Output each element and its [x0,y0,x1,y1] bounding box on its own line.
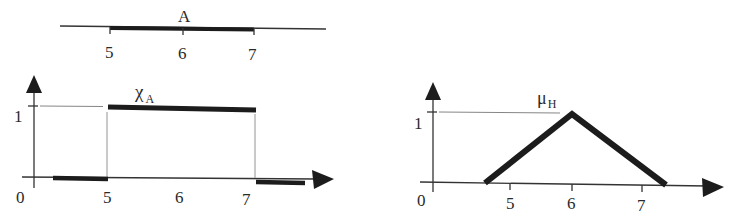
y-tick-label-1: 1 [414,114,423,133]
interval-a-segment [110,28,254,30]
tick-label-5: 5 [105,43,114,62]
y-axis-arrow-icon [26,75,42,93]
x-tick-label-5: 5 [103,188,112,207]
chi-a-value-one-segment [108,107,256,110]
tick-label-7: 7 [248,45,257,64]
x-tick-label-7: 7 [637,196,646,215]
mu-h-triangle [485,114,666,185]
chi-a-value-zero-right-segment [256,182,305,183]
diagram-canvas: A 5 6 7 1 χA 0 5 6 7 1 [0,0,738,220]
x-tick-label-5: 5 [506,194,515,213]
x-tick-label-6: 6 [175,188,184,207]
y-axis-arrow-icon [425,82,441,100]
function-label-mu: μH [537,88,557,111]
x-tick-label-7: 7 [242,190,251,209]
origin-label: 0 [417,191,426,210]
number-line-a: A 5 6 7 [60,7,326,64]
x-axis-arrow-icon [702,178,724,197]
guide-line-y1 [439,112,560,113]
guide-line-y1 [40,106,103,107]
set-label-a: A [178,7,191,26]
y-tick-label-1: 1 [14,107,23,126]
function-label-chi: χA [134,81,154,106]
tick-label-6: 6 [178,44,187,63]
x-axis-arrow-icon [312,170,334,189]
origin-label: 0 [16,188,25,207]
x-tick-label-6: 6 [567,194,576,213]
chart-chi-a: 1 χA 0 5 6 7 [14,75,334,209]
chart-mu-h: 1 μH 0 5 6 7 [414,82,724,215]
chi-a-value-zero-left-segment [53,178,108,179]
